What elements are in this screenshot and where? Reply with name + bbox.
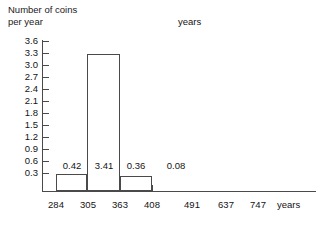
y-tick-label-1-5: 1.5: [14, 120, 38, 130]
y-tick-label-1-8: 1.8: [14, 108, 38, 118]
plot-area: 0.42 3.41 0.36 0.08: [42, 40, 317, 193]
y-tick-label-3-0: 3.0: [14, 60, 38, 70]
y-tick-label-1-2: 1.2: [14, 132, 38, 142]
bar-value-label-3-41: 3.41: [95, 160, 114, 171]
y-tick-mark-2-7: [43, 77, 49, 78]
y-tick-mark-0-9: [43, 149, 49, 150]
bar-363-408: [120, 176, 152, 191]
x-axis-line: [42, 191, 316, 192]
y-tick-label-0-3: 0.3: [14, 168, 38, 178]
x-tick-label-284: 284: [48, 199, 64, 210]
x-tick-mark-408: [152, 185, 153, 192]
y-tick-label-0-9: 0.9: [14, 144, 38, 154]
bar-chart: Number of coins per year years 3.6 3.3 3…: [0, 0, 333, 225]
top-annotation-years: years: [178, 16, 201, 27]
y-tick-mark-1-5: [43, 125, 49, 126]
y-tick-mark-1-8: [43, 113, 49, 114]
y-tick-mark-1-2: [43, 137, 49, 138]
y-tick-mark-2-4: [43, 89, 49, 90]
y-tick-label-2-1: 2.1: [14, 96, 38, 106]
x-tick-label-305: 305: [80, 199, 96, 210]
y-tick-label-0-6: 0.6: [14, 156, 38, 166]
y-tick-label-3-3: 3.3: [14, 48, 38, 58]
y-tick-label-2-4: 2.4: [14, 84, 38, 94]
y-axis-title-line1: Number of coins: [8, 4, 77, 15]
y-tick-mark-3-0: [43, 65, 49, 66]
y-tick-mark-2-1: [43, 101, 49, 102]
bar-284-305: [56, 174, 87, 191]
bar-value-label-0-36: 0.36: [127, 160, 146, 171]
y-tick-mark-3-3: [43, 53, 49, 54]
x-tick-label-408: 408: [144, 199, 160, 210]
y-tick-label-3-6: 3.6: [14, 36, 38, 46]
x-tick-label-637: 637: [218, 199, 234, 210]
y-axis-title-line2: per year: [8, 16, 43, 27]
bar-value-label-0-08: 0.08: [167, 160, 186, 171]
x-tick-label-747: 747: [250, 199, 266, 210]
x-tick-label-491: 491: [184, 199, 200, 210]
y-tick-mark-0-6: [43, 161, 49, 162]
y-tick-mark-3-6: [43, 41, 49, 42]
x-axis-title: years: [277, 199, 300, 210]
y-tick-label-2-7: 2.7: [14, 72, 38, 82]
y-axis-line: [42, 40, 43, 192]
bar-value-label-0-42: 0.42: [63, 160, 82, 171]
x-tick-label-363: 363: [112, 199, 128, 210]
y-tick-mark-0-3: [43, 173, 49, 174]
